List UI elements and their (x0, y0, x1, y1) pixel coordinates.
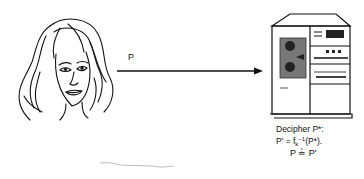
stray-mark (98, 160, 178, 170)
comparison-text: P ≟ P' (290, 148, 317, 158)
formula-suffix: (P*). (305, 136, 322, 146)
arrow-right-icon (115, 66, 265, 76)
computer-mainframe-icon (268, 10, 358, 120)
decipher-caption: Decipher P*: P' = fk−1(P*). (276, 124, 324, 149)
formula-prefix: P' = f (276, 136, 295, 146)
channel-label: P (128, 52, 134, 62)
woman-face-icon (10, 12, 120, 132)
caption-line-2: P' = fk−1(P*). (276, 134, 324, 149)
caption-line-1: Decipher P*: (276, 124, 324, 134)
